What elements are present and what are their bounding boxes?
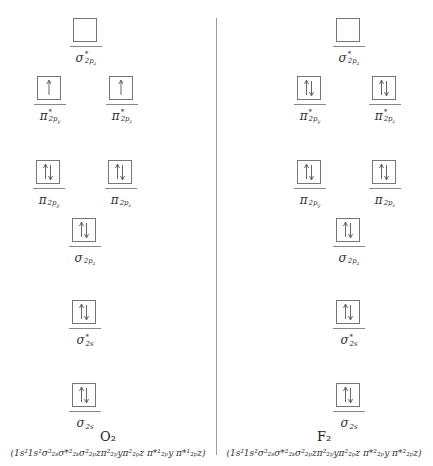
spin-up-arrow-icon (80, 222, 84, 237)
orbital-label: σ*2pz (56, 51, 116, 67)
electron-configuration: (1s²1s²σ²₂ₛσ*²₂ₛσ²₂ₚzπ²₂ₚyπ²₂ₚz π*¹₂ₚy π… (0, 448, 216, 458)
energy-level-line (70, 46, 102, 47)
energy-level-line (369, 104, 401, 105)
energy-level-line (333, 46, 365, 47)
spin-up-arrow-icon (119, 80, 123, 95)
energy-level-line (69, 411, 101, 412)
orbital-label: σ 2pz (319, 251, 379, 267)
spin-down-arrow-icon (349, 223, 353, 238)
spin-up-arrow-icon (44, 164, 48, 179)
energy-level-line (333, 246, 365, 247)
spin-down-arrow-icon (385, 165, 389, 180)
orbital-label: π*2py (280, 109, 340, 125)
spin-down-arrow-icon (85, 388, 89, 403)
spin-down-arrow-icon (85, 223, 89, 238)
energy-level-line (105, 188, 137, 189)
orbital-label: π 2py (280, 193, 340, 209)
molecule-label: F₂ (216, 429, 432, 444)
orbital-label: π*2py (20, 109, 80, 125)
orbital-label: π*2pz (355, 109, 415, 125)
spin-up-arrow-icon (344, 304, 348, 319)
spin-down-arrow-icon (85, 305, 89, 320)
spin-up-arrow-icon (305, 164, 309, 179)
spin-down-arrow-icon (310, 165, 314, 180)
orbital-label: σ*2s (55, 333, 115, 348)
spin-up-arrow-icon (344, 387, 348, 402)
energy-level-line (369, 188, 401, 189)
energy-level-line (333, 411, 365, 412)
spin-up-arrow-icon (344, 222, 348, 237)
spin-down-arrow-icon (49, 165, 53, 180)
energy-level-line (294, 104, 326, 105)
spin-down-arrow-icon (385, 81, 389, 96)
energy-level-line (333, 328, 365, 329)
orbital-label: π*2pz (92, 109, 152, 125)
energy-level-line (294, 188, 326, 189)
orbital-label: π 2pz (91, 193, 151, 209)
molecule-label: O₂ (0, 429, 216, 444)
orbital-label: π 2pz (355, 193, 415, 209)
energy-level-line (69, 246, 101, 247)
spin-up-arrow-icon (380, 80, 384, 95)
spin-up-arrow-icon (47, 80, 51, 95)
spin-down-arrow-icon (349, 305, 353, 320)
orbital-label: σ*2s (319, 333, 379, 348)
orbital-label: σ 2pz (55, 251, 115, 267)
spin-down-arrow-icon (349, 388, 353, 403)
spin-up-arrow-icon (116, 164, 120, 179)
orbital-label: σ*2pz (319, 51, 379, 67)
energy-level-line (106, 104, 138, 105)
electron-configuration: (1s²1s²σ²₂ₛσ*²₂ₛσ²₂ₚzπ²₂ₚyπ²₂ₚz π*²₂ₚy π… (216, 448, 432, 458)
spin-down-arrow-icon (310, 81, 314, 96)
energy-level-line (69, 328, 101, 329)
panel-divider (216, 18, 217, 455)
spin-down-arrow-icon (121, 165, 125, 180)
energy-level-line (33, 188, 65, 189)
spin-up-arrow-icon (80, 387, 84, 402)
energy-level-line (34, 104, 66, 105)
spin-up-arrow-icon (305, 80, 309, 95)
spin-up-arrow-icon (80, 304, 84, 319)
spin-up-arrow-icon (380, 164, 384, 179)
orbital-label: π 2py (19, 193, 79, 209)
